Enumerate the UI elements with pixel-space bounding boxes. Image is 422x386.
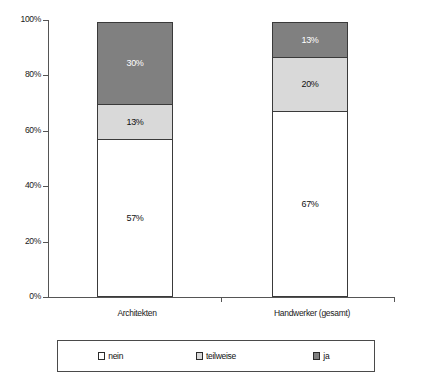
y-tick-100: 100% [48, 20, 49, 21]
y-tick-20: 20% [48, 242, 49, 243]
legend-item-teilweise[interactable]: teilweise [163, 351, 268, 362]
y-tick-mark [43, 75, 48, 76]
y-tick-mark [43, 131, 48, 132]
y-tick-label: 60% [25, 125, 41, 136]
bar-segment-value: 13% [301, 35, 318, 46]
bar-segment-ja: 30% [97, 22, 173, 105]
y-tick-60: 60% [48, 131, 49, 132]
legend-item-label: teilweise [206, 351, 236, 362]
legend-item-label: nein [108, 351, 123, 362]
y-tick-label: 20% [25, 236, 41, 247]
y-tick-label: 100% [20, 14, 41, 25]
legend-swatch-icon [196, 352, 203, 360]
bar-segment-value: 20% [301, 79, 318, 90]
bar-segment-nein: 67% [272, 111, 348, 297]
plot-area: 100% 80% 60% 40% 20% 0% 30% [48, 20, 395, 297]
bar-segment-nein: 57% [97, 139, 173, 297]
bar-segment-value: 67% [301, 199, 318, 210]
bar-segment-value: 30% [126, 58, 143, 69]
stacked-bar-chart: 100% 80% 60% 40% 20% 0% 30% [0, 0, 422, 386]
y-tick-label: 80% [25, 69, 41, 80]
y-tick-mark [43, 297, 48, 298]
legend-swatch-icon [98, 352, 105, 360]
legend-item-label: ja [323, 351, 329, 362]
y-tick-80: 80% [48, 75, 49, 76]
bar-segment-ja: 13% [272, 22, 348, 58]
y-tick-40: 40% [48, 186, 49, 187]
y-tick-mark [43, 186, 48, 187]
x-category-label-architekten: Architekten [57, 308, 217, 319]
bar-segment-value: 57% [126, 213, 143, 224]
y-tick-label: 0% [29, 291, 41, 302]
x-tick-mark [221, 297, 222, 302]
legend-item-ja[interactable]: ja [269, 351, 374, 362]
legend-swatch-icon [313, 352, 320, 360]
bar-handwerker-gesamt: 13% 20% 67% [272, 22, 348, 297]
y-tick-label: 40% [25, 180, 41, 191]
y-axis-line [48, 20, 49, 297]
y-tick-0: 0% [48, 297, 49, 298]
bar-segment-teilweise: 20% [272, 57, 348, 112]
bar-architekten: 30% 13% 57% [97, 22, 173, 297]
legend-item-nein[interactable]: nein [58, 351, 163, 362]
x-tick-mark [394, 297, 395, 302]
y-tick-mark [43, 20, 48, 21]
legend: nein teilweise ja [57, 340, 375, 372]
x-category-label-handwerker: Handwerker (gesamt) [232, 308, 392, 319]
bar-segment-value: 13% [126, 117, 143, 128]
bar-segment-teilweise: 13% [97, 104, 173, 140]
y-tick-mark [43, 242, 48, 243]
